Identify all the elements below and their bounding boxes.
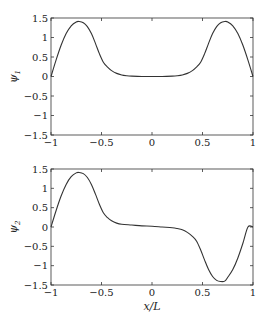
x-tick-label: 0: [149, 137, 155, 148]
x-tick-label: 1: [250, 287, 256, 298]
figure: −1−0.500.511.510.50−0.5−1−1.5ψ1 −1−0.500…: [0, 0, 267, 321]
y-axis-label-subscript: 2: [14, 220, 22, 226]
x-axis-label: x/L: [143, 300, 160, 313]
y-axis-label: ψ1: [7, 70, 22, 83]
x-tick-label: 0.5: [195, 137, 211, 148]
series-line-psi1: [51, 21, 253, 76]
y-tick-label: 1: [42, 183, 48, 194]
subplot-psi2: −1−0.500.511.510.50−0.5−1−1.5ψ2x/L: [7, 164, 256, 314]
y-tick-label: −1: [33, 260, 48, 271]
x-tick-label: −0.5: [89, 137, 113, 148]
subplot-psi1: −1−0.500.511.510.50−0.5−1−1.5ψ1: [7, 13, 256, 149]
y-tick-label: 1.5: [32, 164, 48, 175]
y-tick-label: 1.5: [32, 13, 48, 24]
y-tick-label: 0.5: [32, 52, 48, 63]
y-axis-label: ψ2: [7, 220, 22, 234]
y-tick-label: −1: [33, 110, 48, 121]
series-line-psi2: [51, 172, 253, 281]
x-tick-label: 0.5: [195, 287, 211, 298]
y-tick-label: 1: [42, 32, 48, 43]
x-tick-label: 1: [250, 137, 256, 148]
plot-area-frame: [51, 169, 253, 285]
y-axis-label-subscript: 1: [14, 70, 22, 74]
y-tick-label: −0.5: [24, 241, 48, 252]
y-tick-label: 0.5: [32, 202, 48, 213]
y-tick-label: −0.5: [24, 91, 48, 102]
y-tick-label: 0: [42, 71, 48, 82]
y-tick-label: 0: [42, 222, 48, 233]
x-tick-label: −0.5: [89, 287, 113, 298]
x-tick-label: 0: [149, 287, 155, 298]
y-tick-label: −1.5: [24, 130, 48, 141]
y-tick-label: −1.5: [24, 280, 48, 291]
